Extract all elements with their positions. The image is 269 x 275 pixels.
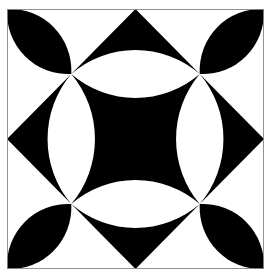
geometric-pattern-figure: Geometric tile pattern: concave-square c… <box>7 9 264 269</box>
